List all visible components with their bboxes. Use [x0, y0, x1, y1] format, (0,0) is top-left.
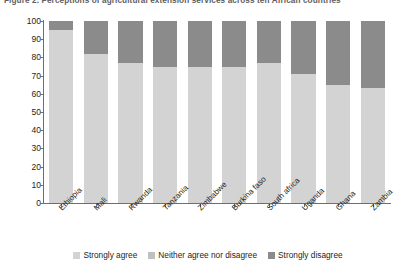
bar-stack[interactable] [222, 21, 246, 203]
bar-segment [84, 21, 108, 54]
bar-stack[interactable] [84, 21, 108, 203]
y-axis-tick-label: 50 [19, 107, 41, 117]
bar-segment [153, 21, 177, 67]
bar-segment [361, 88, 385, 203]
y-axis-tick-label: 0 [19, 198, 41, 208]
bar-stack[interactable] [118, 21, 142, 203]
legend-swatch-icon [73, 252, 80, 259]
figure: Figure 2. Perceptions of agricultural ex… [0, 0, 416, 267]
bar-stack[interactable] [361, 21, 385, 203]
bar-segment [118, 21, 142, 63]
legend-item[interactable]: Neither agree nor disagree [148, 250, 257, 260]
y-axis-tick-mark [40, 185, 44, 186]
bar-segment [361, 21, 385, 88]
y-axis-tick-mark [40, 130, 44, 131]
y-axis-tick-label: 10 [19, 180, 41, 190]
legend-swatch-icon [148, 252, 155, 259]
y-axis-tick-label: 60 [19, 89, 41, 99]
y-axis-tick-mark [40, 94, 44, 95]
bar-segment [153, 67, 177, 204]
bar-segment [291, 21, 315, 74]
bar-segment [49, 30, 73, 203]
legend-label: Strongly disagree [278, 250, 343, 260]
y-axis-tick-mark [40, 21, 44, 22]
y-axis-tick-label: 20 [19, 162, 41, 172]
bar-stack[interactable] [49, 21, 73, 203]
y-axis-tick-label: 40 [19, 125, 41, 135]
legend-item[interactable]: Strongly agree [73, 250, 137, 260]
y-axis-tick-mark [40, 76, 44, 77]
legend-label: Strongly agree [83, 250, 137, 260]
chart-legend: Strongly agreeNeither agree nor disagree… [0, 250, 416, 260]
bar-segment [257, 21, 281, 63]
y-axis-tick-label: 80 [19, 52, 41, 62]
y-axis-tick-mark [40, 57, 44, 58]
legend-swatch-icon [268, 252, 275, 259]
legend-label: Neither agree nor disagree [158, 250, 257, 260]
legend-item[interactable]: Strongly disagree [268, 250, 343, 260]
y-axis-tick-mark [40, 167, 44, 168]
bar-segment [118, 63, 142, 203]
bar-segment [188, 67, 212, 204]
y-axis-tick-label: 70 [19, 71, 41, 81]
bar-stack[interactable] [326, 21, 350, 203]
plot-area: Percent of respondents 01020304050607080… [44, 21, 390, 203]
y-axis-tick-label: 90 [19, 34, 41, 44]
bar-segment [188, 21, 212, 67]
bar-segment [222, 21, 246, 67]
bar-segment [84, 54, 108, 203]
y-axis-tick-label: 100 [19, 16, 41, 26]
y-axis-tick-label: 30 [19, 143, 41, 153]
bar-segment [326, 85, 350, 203]
y-axis-tick-mark [40, 112, 44, 113]
figure-caption: Figure 2. Perceptions of agricultural ex… [4, 0, 341, 5]
bar-segment [49, 21, 73, 30]
bar-stack[interactable] [153, 21, 177, 203]
y-axis-tick-mark [40, 39, 44, 40]
bar-segment [326, 21, 350, 85]
y-axis-tick-mark [40, 203, 44, 204]
figure-caption-strip: Figure 2. Perceptions of agricultural ex… [0, 0, 416, 9]
bar-stack[interactable] [188, 21, 212, 203]
y-axis-tick-mark [40, 148, 44, 149]
